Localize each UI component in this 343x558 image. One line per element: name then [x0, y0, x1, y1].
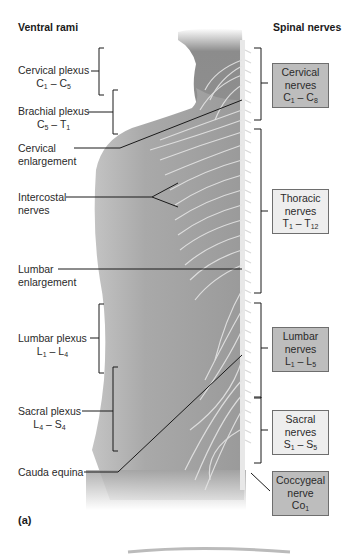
- panel-label: (a): [18, 514, 31, 526]
- cervical-nerves-box: Cervicalnerves C1 – C8: [272, 63, 329, 108]
- right-brackets: [251, 48, 270, 491]
- sacral-plexus-label: Sacral plexus L4 – S4: [18, 405, 81, 434]
- brachial-plexus-label: Brachial plexus C5 – T1: [18, 105, 89, 134]
- torso-shape: [92, 88, 244, 500]
- lumbar-plexus-label: Lumbar plexus L1 – L4: [18, 332, 87, 361]
- spinal-nerves-header: Spinal nerves: [273, 21, 341, 33]
- cervical-plexus-label: Cervical plexus C1 – C5: [18, 64, 89, 93]
- next-figure-edge: [128, 549, 290, 553]
- ventral-rami-header: Ventral rami: [18, 21, 78, 33]
- cervical-enlargement-label: Cervicalenlargement: [18, 142, 76, 167]
- thoracic-nerves-box: Thoracicnerves T1 – T12: [272, 189, 329, 234]
- spinal-root-ticks: [245, 50, 251, 443]
- sacral-nerves-box: Sacralnerves S1 – S5: [272, 410, 329, 455]
- lumbar-enlargement-label: Lumbarenlargement: [18, 263, 76, 288]
- coccygeal-nerve-box: Coccygealnerve Co1: [272, 471, 329, 516]
- lumbar-nerves-box: Lumbarnerves L1 – L5: [272, 327, 329, 372]
- cauda-equina-label: Cauda equina: [18, 466, 83, 479]
- intercostal-nerves-label: Intercostalnerves: [18, 191, 66, 216]
